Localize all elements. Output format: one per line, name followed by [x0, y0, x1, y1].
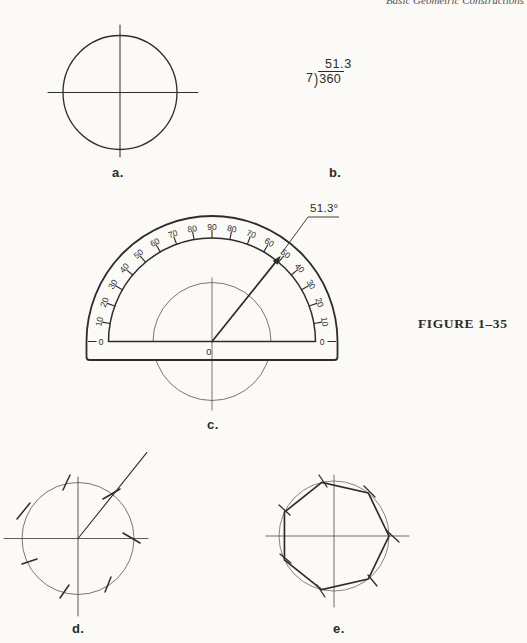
compass-arc-tick [22, 559, 37, 564]
figure-d-ray [78, 453, 147, 539]
sub-label-d: d. [72, 621, 84, 636]
page-header-running-title: Basic Geometric Constructions [386, 0, 524, 6]
sub-label-e: e. [333, 621, 345, 636]
textbook-page: 1020304050607080908070605040302010000 Ba… [0, 0, 527, 643]
protractor-scale-label: 80 [187, 223, 198, 235]
sub-label-b: b. [329, 165, 341, 180]
compass-arc-tick [63, 475, 70, 490]
division-problem: 51.3 7)360 [306, 57, 352, 86]
protractor-left-zero-label: 0 [99, 337, 104, 347]
protractor-center-zero-label: 0 [206, 346, 211, 357]
protractor-scale-label: 10 [93, 316, 105, 327]
sub-label-a: a. [112, 165, 124, 180]
sub-label-c: c. [207, 417, 219, 432]
protractor-right-zero-label: 0 [320, 337, 325, 347]
figure-caption: FIGURE 1–35 [418, 316, 507, 332]
protractor-measuring-ray [212, 261, 276, 341]
division-quotient: 51.3 [325, 57, 352, 71]
vertex-arc-tick [317, 585, 325, 597]
division-dividend: 360 [318, 71, 344, 86]
vertex-arc-tick [319, 475, 327, 487]
protractor-scale-label: 10 [319, 316, 331, 327]
protractor-scale-label: 90 [207, 222, 217, 232]
vertex-arc-tick [368, 575, 377, 586]
compass-arc-tick [123, 533, 140, 543]
division-bracket-icon: ) [314, 71, 318, 89]
compass-arc-tick [17, 503, 30, 519]
protractor-scale-label: 80 [226, 223, 237, 235]
protractor-angle-readout: 51.3° [310, 202, 338, 214]
division-divisor: 7 [306, 71, 313, 85]
